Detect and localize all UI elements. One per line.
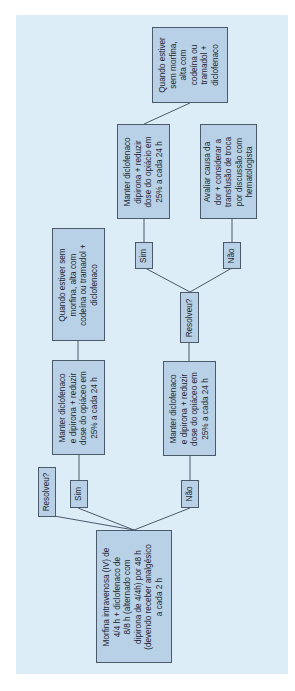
node-q2-nao: Não <box>223 242 241 269</box>
text-line: codeína ou <box>190 29 201 101</box>
text-line: codeína ou tramadol + <box>79 231 90 339</box>
edge-start-q1-no <box>134 508 190 530</box>
text-line: diclofenaco <box>211 29 222 101</box>
node-reduce-a-text: Manter diclofenaco e dipirona + reduzir … <box>57 362 99 454</box>
text-line: alta com <box>179 29 190 101</box>
node-start-text: Morfina intravenosa (IV) de 4/4 h + dicl… <box>102 532 166 662</box>
text-line: e dipirona + reduzir <box>68 362 79 454</box>
text-line: Quando estiver <box>158 29 169 101</box>
node-q1-sim: Sim <box>70 480 88 508</box>
node-q2-text: Resolveu? <box>184 294 195 342</box>
text-line: tramadol + <box>201 29 212 101</box>
text-line: transfusão de troca <box>223 126 234 218</box>
text-line: Manter diclofenaco <box>168 363 179 455</box>
node-reduce-opioid-a: Manter diclofenaco e dipirona + reduzir … <box>52 360 105 455</box>
node-q1-sim-text: Sim <box>74 481 85 507</box>
node-q1-resolveu: Resolveu? <box>38 467 56 517</box>
node-reduce-c-text: Manter diclofenaco dipirona + reduzir do… <box>122 126 164 218</box>
text-line: por discussão com <box>234 126 245 218</box>
edge-start-q1 <box>54 516 134 530</box>
text-line: Manter diclofenaco <box>57 362 68 454</box>
text-line: hematologista <box>244 126 255 218</box>
edge-q2-yes <box>145 268 190 292</box>
node-start-morphine-iv: Morfina intravenosa (IV) de 4/4 h + dicl… <box>96 530 172 663</box>
text-line: 8/8 h (alternado com <box>123 532 134 662</box>
node-evaluate-pain-cause: Avaliar causa da dor + considerar a tran… <box>200 124 257 219</box>
edge-reduce-c-discharge-b <box>144 103 190 124</box>
node-discharge-b: Quando estiver sem morfina, alta com cod… <box>152 27 228 103</box>
text-line: diclofenaco <box>89 231 100 339</box>
edge-q2-no <box>190 268 232 292</box>
text-line: dose do opiáceo em <box>79 362 90 454</box>
node-discharge-a: Quando estiver sem morfina, alta com cod… <box>52 228 105 341</box>
text-line: 25% a cada 24 h <box>200 363 211 455</box>
text-line: (devendo receber analgésico <box>145 532 156 662</box>
text-line: 25% a cada 24 h <box>89 362 100 454</box>
node-q1-nao: Não <box>181 480 199 508</box>
text-line: 4/4 h + diclofenaco de <box>113 532 124 662</box>
text-line: Morfina intravenosa (IV) de <box>102 532 113 662</box>
text-line: a cada 2 h <box>155 532 166 662</box>
text-line: dor + considerar a <box>213 126 224 218</box>
node-q2-sim-text: Sim <box>139 243 150 269</box>
node-discharge-b-text: Quando estiver sem morfina, alta com cod… <box>158 29 222 101</box>
node-reduce-b-text: Manter diclofenaco e dipirona + reduzir … <box>168 363 210 455</box>
node-evaluate-text: Avaliar causa da dor + considerar a tran… <box>202 126 255 218</box>
node-discharge-a-text: Quando estiver sem morfina, alta com cod… <box>57 231 99 339</box>
node-reduce-opioid-c: Manter diclofenaco dipirona + reduzir do… <box>117 124 170 219</box>
node-q2-nao-text: Não <box>227 243 238 269</box>
node-q1-text: Resolveu? <box>42 468 53 516</box>
text-line: Quando estiver sem <box>57 231 68 339</box>
node-q2-sim: Sim <box>135 242 153 269</box>
text-line: e dipirona + reduzir <box>179 363 190 455</box>
text-line: sem morfina, <box>169 29 180 101</box>
text-line: dipirona + reduzir <box>133 126 144 218</box>
edge-start-q1-yes <box>78 508 134 530</box>
text-line: dose do opiácio em <box>144 126 155 218</box>
text-line: Avaliar causa da <box>202 126 213 218</box>
text-line: 25% a cada 24 h <box>154 126 165 218</box>
node-reduce-opioid-b: Manter diclofenaco e dipirona + reduzir … <box>163 361 216 456</box>
text-line: morfina, alta com <box>68 231 79 339</box>
text-line: dipirona de 4/4h) por 48 h <box>134 532 145 662</box>
node-q2-resolveu: Resolveu? <box>180 292 199 343</box>
text-line: dose do opiáceo em <box>190 363 201 455</box>
node-q1-nao-text: Não <box>185 481 196 507</box>
text-line: Manter diclofenaco <box>122 126 133 218</box>
